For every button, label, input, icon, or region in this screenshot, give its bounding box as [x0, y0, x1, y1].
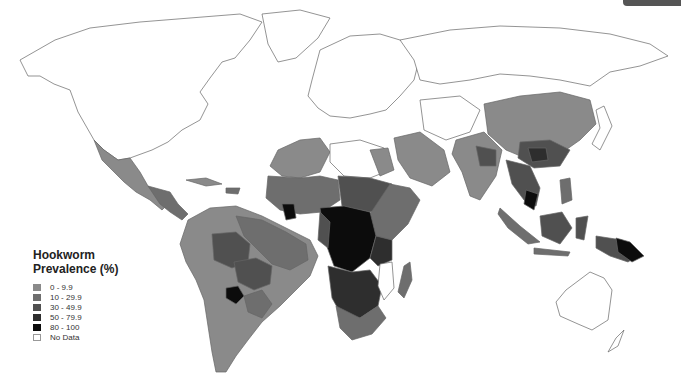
region-cuba [186, 178, 222, 186]
region-japan [592, 106, 612, 150]
region-borneo [540, 212, 572, 244]
region-java [534, 248, 570, 256]
legend-swatch [33, 304, 41, 311]
region-vietnam-south [524, 190, 538, 210]
region-russia [400, 26, 668, 86]
legend-swatch [33, 314, 41, 321]
legend-item: No Data [33, 332, 118, 342]
legend-title-line1: Hookworm [33, 248, 118, 262]
region-europe [308, 34, 420, 118]
region-madagascar [398, 262, 412, 298]
legend-item: 10 - 29.9 [33, 292, 118, 302]
region-north-america [20, 14, 262, 160]
legend-label: 10 - 29.9 [50, 293, 82, 302]
legend-swatch [33, 324, 41, 331]
region-north-africa-west [270, 138, 330, 178]
legend-label: 80 - 100 [50, 323, 79, 332]
legend-label: 50 - 79.9 [50, 313, 82, 322]
legend-swatch [33, 294, 41, 301]
legend-item: 30 - 49.9 [33, 302, 118, 312]
region-new-zealand [608, 330, 624, 352]
map-legend: Hookworm Prevalence (%) 0 - 9.9 10 - 29.… [33, 248, 118, 342]
region-australia [556, 272, 612, 330]
region-sulawesi [576, 216, 588, 240]
region-arabia [394, 132, 450, 186]
legend-item: 50 - 79.9 [33, 312, 118, 322]
legend-title-line2: Prevalence (%) [33, 262, 118, 276]
legend-label: No Data [50, 333, 79, 342]
corner-tab-decoration [623, 0, 681, 6]
legend-swatch-nodata [33, 334, 41, 341]
legend-items: 0 - 9.9 10 - 29.9 30 - 49.9 50 - 79.9 80… [33, 282, 118, 342]
legend-item: 0 - 9.9 [33, 282, 118, 292]
region-sumatra [498, 208, 540, 244]
legend-label: 30 - 49.9 [50, 303, 82, 312]
legend-item: 80 - 100 [33, 322, 118, 332]
region-iran-central-asia [420, 96, 480, 140]
region-hispaniola [226, 188, 240, 194]
legend-swatch [33, 284, 41, 291]
legend-label: 0 - 9.9 [50, 283, 73, 292]
region-philippines [560, 178, 572, 204]
region-liberia [282, 204, 296, 220]
